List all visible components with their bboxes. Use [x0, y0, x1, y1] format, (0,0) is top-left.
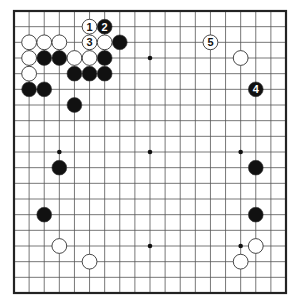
black-stone [22, 82, 37, 97]
move-number-label: 5 [207, 36, 213, 48]
white-stone [67, 51, 82, 66]
white-stone: 5 [203, 35, 218, 50]
white-stone [82, 254, 97, 269]
star-point [148, 56, 153, 61]
black-stone: 2 [97, 19, 112, 34]
black-stone: 4 [248, 82, 263, 97]
white-stone [233, 51, 248, 66]
go-board-svg: 24135 [0, 0, 300, 305]
white-stone: 3 [82, 35, 97, 50]
black-stone [37, 207, 52, 222]
white-stone [52, 239, 67, 254]
star-point [148, 244, 153, 249]
move-number-label: 1 [86, 21, 92, 33]
white-stone [97, 35, 112, 50]
white-stone [233, 254, 248, 269]
star-point [238, 150, 243, 155]
move-number-label: 4 [253, 83, 260, 95]
move-number-label: 3 [86, 36, 92, 48]
black-stone [248, 160, 263, 175]
black-stone [67, 66, 82, 81]
black-stone [97, 51, 112, 66]
white-stone: 1 [82, 19, 97, 34]
black-stone [82, 66, 97, 81]
black-stone [67, 98, 82, 113]
star-point [238, 244, 243, 249]
black-stone [97, 66, 112, 81]
black-stone [52, 51, 67, 66]
white-stone [22, 66, 37, 81]
star-point [148, 150, 153, 155]
go-board: 24135 [0, 0, 300, 305]
white-stone [248, 239, 263, 254]
white-stone [82, 51, 97, 66]
white-stone [22, 35, 37, 50]
white-stone [22, 51, 37, 66]
star-point [57, 150, 62, 155]
black-stone [248, 207, 263, 222]
move-number-label: 2 [102, 21, 108, 33]
stones-layer: 24135 [22, 19, 263, 269]
black-stone [112, 35, 127, 50]
white-stone [37, 35, 52, 50]
white-stone [52, 35, 67, 50]
black-stone [37, 82, 52, 97]
black-stone [52, 160, 67, 175]
black-stone [37, 51, 52, 66]
